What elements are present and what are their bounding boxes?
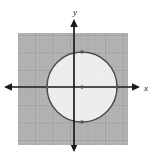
left-point (45, 85, 48, 88)
center-point (80, 85, 83, 88)
x-axis-label: x (143, 83, 148, 93)
right-point (115, 85, 118, 88)
bottom-point (80, 120, 83, 123)
coordinate-plane-svg: y x (0, 0, 151, 152)
y-axis-label: y (72, 7, 77, 17)
graph-figure: y x (0, 0, 151, 152)
top-point (80, 50, 83, 53)
